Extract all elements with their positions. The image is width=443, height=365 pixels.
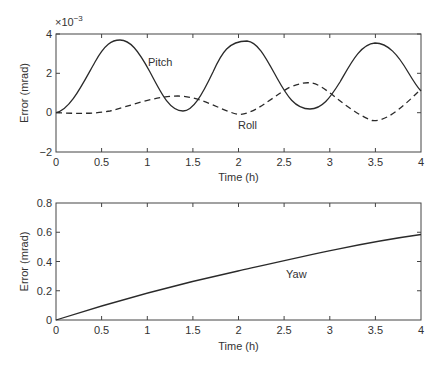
top-ytick-2: 2	[46, 67, 52, 79]
pitch-annotation: Pitch	[148, 56, 172, 68]
figure: 4 2 0 −2 ×10−3 0 0.5 1 1.5 2 2.5 3 3.5 4…	[0, 0, 443, 365]
bottom-ylabel: Error (mrad)	[18, 232, 30, 292]
svg-text:3.5: 3.5	[368, 156, 383, 168]
svg-text:2: 2	[235, 324, 241, 336]
svg-text:4: 4	[418, 324, 424, 336]
top-xtick-labels: 0 0.5 1 1.5 2 2.5 3 3.5 4	[53, 156, 424, 168]
svg-text:0.5: 0.5	[94, 324, 109, 336]
bottom-xtick-labels: 0 0.5 1 1.5 2 2.5 3 3.5 4	[53, 324, 424, 336]
svg-text:2: 2	[235, 156, 241, 168]
svg-text:1: 1	[144, 324, 150, 336]
yaw-annotation: Yaw	[286, 268, 307, 280]
top-ylabel: Error (mrad)	[18, 63, 30, 123]
svg-text:0: 0	[53, 156, 59, 168]
roll-annotation: Roll	[238, 119, 257, 131]
top-scale-factor: ×10−3	[55, 14, 83, 28]
bottom-y-ticks	[56, 232, 421, 291]
svg-text:1: 1	[144, 156, 150, 168]
svg-text:1.5: 1.5	[185, 324, 200, 336]
bottom-ytick-0.6: 0.6	[37, 226, 52, 238]
top-ytick-4: 4	[46, 28, 52, 40]
svg-text:2.5: 2.5	[276, 156, 291, 168]
roll-line	[56, 83, 421, 121]
svg-text:1.5: 1.5	[185, 156, 200, 168]
svg-text:0.5: 0.5	[94, 156, 109, 168]
bottom-xlabel: Time (h)	[218, 340, 259, 352]
top-ytick-neg2: −2	[39, 146, 52, 158]
top-xlabel: Time (h)	[218, 171, 259, 183]
svg-text:3: 3	[327, 324, 333, 336]
bottom-plot: 0.8 0.6 0.4 0.2 0 0 0.5 1 1.5 2 2.5 3 3.…	[18, 197, 424, 352]
svg-text:0: 0	[53, 324, 59, 336]
top-plot: 4 2 0 −2 ×10−3 0 0.5 1 1.5 2 2.5 3 3.5 4…	[18, 14, 424, 183]
svg-text:2.5: 2.5	[276, 324, 291, 336]
yaw-line	[56, 235, 421, 321]
bottom-ytick-0: 0	[46, 314, 52, 326]
pitch-line	[56, 40, 421, 113]
svg-text:3.5: 3.5	[368, 324, 383, 336]
bottom-ytick-0.2: 0.2	[37, 285, 52, 297]
svg-text:4: 4	[418, 156, 424, 168]
bottom-ytick-0.8: 0.8	[37, 197, 52, 209]
bottom-ytick-0.4: 0.4	[37, 256, 52, 268]
top-x-ticks	[102, 34, 376, 152]
top-plot-frame	[56, 34, 421, 152]
top-ytick-0: 0	[46, 106, 52, 118]
bottom-plot-frame	[56, 203, 421, 320]
bottom-x-ticks	[102, 203, 376, 320]
svg-text:3: 3	[327, 156, 333, 168]
